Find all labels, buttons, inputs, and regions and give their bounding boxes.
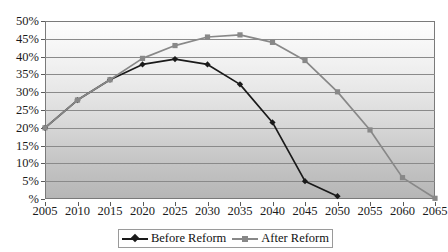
x-axis-tick-mark [45, 202, 46, 206]
data-point-marker [432, 196, 437, 201]
x-axis-tick-mark [175, 202, 176, 206]
y-axis-tick-label: 5% [22, 175, 39, 188]
y-axis-tick-mark [41, 199, 45, 200]
y-axis-labels: %5%10%15%20%25%30%35%40%45%50% [0, 21, 41, 199]
data-point-marker [400, 175, 405, 180]
data-point-marker [107, 77, 112, 82]
x-axis-tick-mark [305, 202, 306, 206]
y-axis-tick-label: 25% [16, 104, 39, 117]
legend-label-after-reform: After Reform [261, 232, 329, 245]
x-axis-tick-label: 2005 [33, 205, 58, 218]
x-axis-tick-label: 2035 [228, 205, 253, 218]
x-axis-tick-mark [78, 202, 79, 206]
x-axis-tick-mark [435, 202, 436, 206]
legend-label-before-reform: Before Reform [151, 232, 226, 245]
x-axis-tick-mark [273, 202, 274, 206]
data-point-marker [75, 97, 80, 102]
x-axis-tick-label: 2020 [130, 205, 155, 218]
data-point-marker [237, 32, 242, 37]
data-point-marker [172, 56, 178, 62]
y-axis-tick-label: 10% [16, 157, 39, 170]
x-axis-tick-mark [110, 202, 111, 206]
chart-title [150, 0, 310, 5]
data-point-marker [139, 61, 145, 67]
x-axis-tick-mark [208, 202, 209, 206]
legend-item-after-reform[interactable]: After Reform [232, 232, 329, 245]
y-axis-tick-label: 40% [16, 50, 39, 63]
y-axis-tick-label: 50% [16, 15, 39, 28]
x-axis-tick-mark [338, 202, 339, 206]
chart-legend: Before Reform After Reform [118, 229, 333, 248]
y-axis-tick-label: 30% [16, 86, 39, 99]
plot-area [45, 21, 435, 199]
x-axis-tick-label: 2055 [358, 205, 383, 218]
x-axis-tick-label: 2015 [98, 205, 123, 218]
x-axis-tick-label: 2065 [423, 205, 448, 218]
x-axis-tick-mark [143, 202, 144, 206]
x-axis-tick-mark [403, 202, 404, 206]
series-layer [45, 21, 435, 199]
legend-marker-square-icon [232, 234, 258, 244]
data-point-marker [270, 40, 275, 45]
x-axis-tick-label: 2060 [390, 205, 415, 218]
series-line-before-reform [45, 59, 338, 196]
y-axis-tick-label: 20% [16, 122, 39, 135]
data-point-marker [140, 56, 145, 61]
x-axis-tick-label: 2045 [293, 205, 318, 218]
legend-marker-diamond-icon [122, 234, 148, 244]
x-axis-tick-mark [370, 202, 371, 206]
x-axis-tick-label: 2030 [195, 205, 220, 218]
data-point-marker [335, 89, 340, 94]
y-axis-tick-label: 35% [16, 68, 39, 81]
x-axis-tick-label: 2025 [163, 205, 188, 218]
data-point-marker [367, 127, 372, 132]
data-point-marker [205, 34, 210, 39]
data-point-marker [172, 43, 177, 48]
x-axis-tick-label: 2010 [65, 205, 90, 218]
x-axis-tick-label: 2040 [260, 205, 285, 218]
y-axis-tick-label: 45% [16, 33, 39, 46]
x-axis-tick-label: 2050 [325, 205, 350, 218]
legend-item-before-reform[interactable]: Before Reform [122, 232, 226, 245]
data-point-marker [302, 58, 307, 63]
data-point-marker [42, 125, 47, 130]
data-point-marker [334, 193, 340, 199]
x-axis-tick-mark [240, 202, 241, 206]
y-axis-tick-label: 15% [16, 139, 39, 152]
x-axis-labels: 2005201020152020202520302035204020452050… [45, 202, 435, 222]
series-line-after-reform [45, 35, 435, 198]
